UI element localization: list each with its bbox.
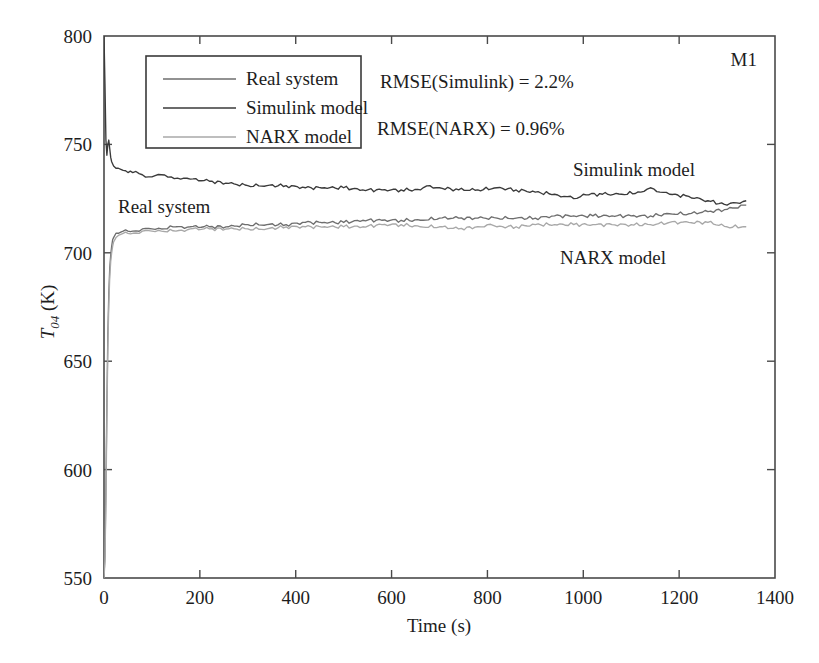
x-tick-label: 400	[281, 587, 310, 608]
y-tick-label: 750	[64, 134, 93, 155]
curve-label-narx: NARX model	[560, 247, 666, 268]
y-tick-label: 700	[64, 243, 93, 264]
y-tick-label: 550	[64, 568, 93, 589]
y-tick-label: 800	[64, 26, 93, 47]
chart-canvas: 0200400600800100012001400 55060065070075…	[0, 0, 819, 663]
x-tick-label: 0	[99, 587, 109, 608]
panel-label: M1	[731, 49, 757, 70]
y-tick-label: 600	[64, 460, 93, 481]
x-tick-label: 1000	[564, 587, 602, 608]
x-axis-title: Time (s)	[407, 615, 471, 637]
legend-label-2: NARX model	[246, 126, 352, 147]
curve-label-simulink: Simulink model	[573, 159, 695, 180]
figure-background	[0, 0, 819, 663]
y-axis-title-subscript: 04	[47, 315, 62, 329]
curve-label-real-system: Real system	[118, 196, 211, 217]
legend-label-1: Simulink model	[246, 97, 368, 118]
chart-legend: Real systemSimulink modelNARX model	[146, 56, 368, 148]
figure-container: 0200400600800100012001400 55060065070075…	[0, 0, 819, 663]
x-tick-label: 1400	[756, 587, 794, 608]
y-axis-title-unit: (K)	[37, 285, 59, 316]
y-tick-label: 650	[64, 351, 93, 372]
x-tick-label: 1200	[660, 587, 698, 608]
x-tick-label: 800	[473, 587, 502, 608]
rmse-narx-annotation: RMSE(NARX) = 0.96%	[377, 118, 565, 140]
x-tick-label: 200	[186, 587, 215, 608]
x-tick-label: 600	[377, 587, 406, 608]
rmse-simulink-annotation: RMSE(Simulink) = 2.2%	[380, 71, 574, 93]
legend-label-0: Real system	[246, 68, 339, 89]
